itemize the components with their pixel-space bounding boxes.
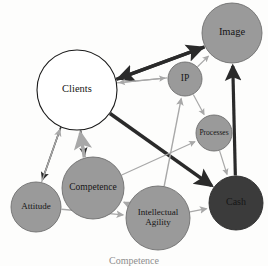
node-label-competence: Competence xyxy=(69,182,116,192)
edge-agility-to-competence xyxy=(124,202,129,204)
node-label-image: Image xyxy=(219,26,246,37)
node-attitude[interactable]: Attitude xyxy=(11,182,61,232)
edge-agility-to-ip xyxy=(164,99,181,186)
edge-ip-to-image xyxy=(198,56,209,67)
node-label-attitude: Attitude xyxy=(21,201,51,211)
node-intellectual_agility[interactable]: IntellectualAgility xyxy=(126,186,190,250)
node-ip[interactable]: IP xyxy=(168,62,202,96)
node-label-cash: Cash xyxy=(226,196,246,207)
figure-caption: Competence xyxy=(109,255,160,266)
edge-clients-to-cash xyxy=(110,113,212,185)
node-processes[interactable]: Processes xyxy=(196,115,232,151)
node-cash[interactable]: Cash xyxy=(209,176,263,230)
node-label-clients: Clients xyxy=(62,83,92,94)
edge-processes-to-cash xyxy=(220,151,227,175)
edge-ip-to-processes xyxy=(193,94,204,114)
node-label-processes: Processes xyxy=(199,128,228,137)
node-label-intellectual_agility: Agility xyxy=(145,217,171,227)
diagram-svg: ImageClientsIPProcessesCashAttitudeCompe… xyxy=(0,0,268,266)
node-label-intellectual_agility: Intellectual xyxy=(138,207,179,217)
edge-attitude-to-clients xyxy=(42,130,60,182)
edge-cash-to-image xyxy=(233,66,236,176)
node-label-ip: IP xyxy=(181,73,189,83)
node-image[interactable]: Image xyxy=(202,3,262,63)
nodes-layer: ImageClientsIPProcessesCashAttitudeCompe… xyxy=(11,3,263,250)
edge-clients-to-ip xyxy=(117,78,165,83)
node-clients[interactable]: Clients xyxy=(37,50,117,130)
diagram-canvas: ImageClientsIPProcessesCashAttitudeCompe… xyxy=(0,0,268,266)
node-competence[interactable]: Competence xyxy=(62,157,124,219)
edge-competence-to-clients xyxy=(80,133,84,157)
edge-agility-to-cash xyxy=(190,209,207,212)
